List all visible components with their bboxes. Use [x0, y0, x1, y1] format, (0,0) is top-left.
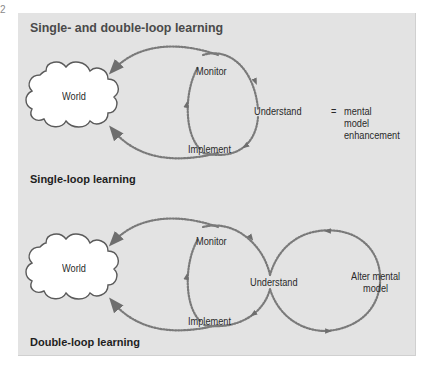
figure-number: 2	[0, 4, 6, 15]
single-loop-diagram	[26, 47, 258, 159]
single-result-line-1: mental	[344, 106, 372, 118]
diagram-panel: Single- and double-loop learning	[18, 13, 416, 356]
single-result-line-2: model	[344, 118, 369, 130]
single-result-line-3: enhancement	[344, 130, 400, 142]
single-loop-heading: Single-loop learning	[30, 173, 136, 185]
single-equals-sign: =	[331, 106, 336, 118]
double-understand-label: Understand	[250, 277, 298, 289]
single-monitor-label: Monitor	[196, 66, 227, 78]
single-implement-label: Implement	[188, 144, 231, 156]
single-understand-label: Understand	[254, 106, 302, 118]
double-implement-label: Implement	[188, 316, 231, 328]
double-monitor-label: Monitor	[196, 236, 227, 248]
double-alter-line-2: model	[363, 283, 388, 295]
double-world-label: World	[62, 263, 86, 275]
single-world-label: World	[62, 91, 86, 103]
double-loop-heading: Double-loop learning	[30, 336, 140, 348]
double-alter-line-1: Alter mental	[351, 271, 400, 283]
